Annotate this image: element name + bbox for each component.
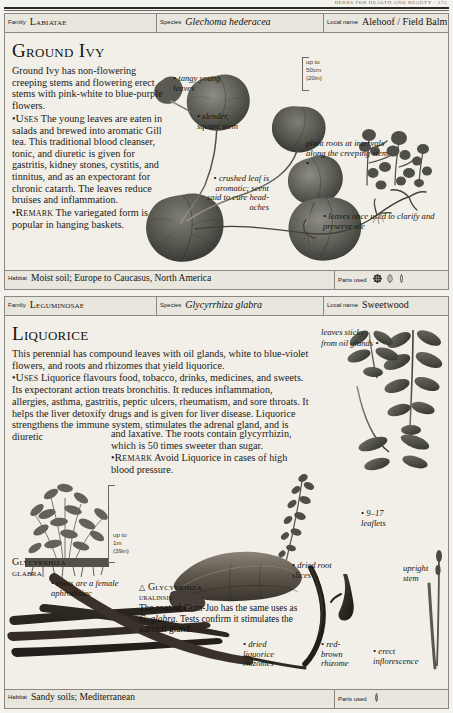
page-title: Liquorice — [12, 324, 88, 343]
body-paragraph-intro: This perennial has compound leaves with … — [12, 348, 308, 371]
annotation-tangy-young-leaves: • tangy young leaves — [173, 73, 227, 93]
footer-cell-habitat: Habitat Sandy soils; Mediterranean — [5, 690, 335, 708]
caption-glycyrrhiza-uralinsis: △ Glycyrrhiza uralinsis The root of Gum-… — [139, 582, 304, 635]
caption-title-line1: △ Glycyrrhiza — [139, 582, 304, 593]
body-paragraph-intro: Ground Ivy has non-flowering creeping st… — [12, 65, 163, 111]
article-content: Ground Ivy Ground Ivy has non-flowering … — [5, 33, 448, 270]
footer-cell-parts-used: Parts used — [335, 271, 448, 289]
annotation-text: upright stem — [403, 563, 428, 583]
leader-dot: • — [197, 111, 200, 121]
family-label: Family — [8, 302, 26, 308]
annotation-roots-female-aphrodisiac: • roots are a female aphrodisiac — [51, 578, 129, 598]
caption-title-line2: uralinsis — [139, 593, 304, 602]
annotation-text: dried root slices — [292, 560, 332, 580]
annotation-crushed-leaf-aromatic: • crushed leaf is aromatic; scent said t… — [203, 173, 269, 213]
top-rule-thick — [4, 7, 449, 9]
scale-line-1: up to — [113, 531, 129, 539]
annotation-leaves-sticky-oil-glands: leaves sticky from oil glands • — [321, 328, 379, 348]
article-footer-strip: Habitat Moist soil; Europe to Caucasus, … — [5, 270, 448, 289]
annotation-nine-seventeen-leaflets: • 9–17 leaflets — [361, 508, 409, 528]
article-content: Liquorice This perennial has compound le… — [5, 316, 448, 689]
article-liquorice: Family Leguminosae Species Glycyrrhiza g… — [4, 296, 449, 709]
species-value: Glycyrrhiza glabra — [185, 300, 262, 310]
annotation-text: leaves once used to clarify and preserve… — [323, 211, 435, 231]
local-name-value: Alehoof / Field Balm — [362, 17, 447, 27]
parts-used-label: Parts used — [338, 696, 367, 702]
flower-icon — [373, 274, 382, 283]
page-title: Ground Ivy — [12, 41, 105, 60]
leader-dot: • — [375, 338, 378, 348]
habitat-value: Moist soil; Europe to Caucasus, North Am… — [31, 274, 211, 284]
habitat-label: Habitat — [8, 275, 27, 281]
header-cell-local-name: Local name Alehoof / Field Balm — [324, 14, 448, 32]
leader-dot: • — [373, 646, 376, 656]
article-header-strip: Family Labiatae Species Glechoma hederac… — [5, 14, 448, 33]
header-cell-species: Species Glycyrrhiza glabra — [157, 297, 324, 315]
keyword-remark: Remark — [115, 451, 153, 463]
leader-dot: • — [173, 73, 176, 83]
running-head: HERBS FOR HEALTH AND BEAUTY · 175 — [0, 0, 453, 7]
header-cell-local-name: Local name Sweetwood — [324, 297, 448, 315]
annotation-text: plant roots at intervals along the creep… — [306, 138, 388, 158]
parts-used-icon-group — [373, 274, 405, 283]
family-value: Leguminosae — [30, 300, 85, 310]
local-name-value: Sweetwood — [362, 300, 409, 310]
annotation-text: tangy young leaves — [173, 73, 221, 93]
keyword-uses: Uses — [16, 371, 39, 383]
body-paragraph-continued: and laxative. The roots contain glycyrrh… — [111, 428, 292, 451]
top-rule-thin — [4, 10, 449, 11]
header-cell-species: Species Glechoma hederacea — [157, 14, 324, 32]
footer-cell-parts-used: Parts used — [335, 690, 448, 708]
local-name-label: Local name — [327, 19, 358, 25]
habitat-value: Sandy soils; Mediterranean — [31, 693, 135, 703]
annotation-erect-inflorescence: • erect inflorescence — [373, 646, 431, 666]
caption-glycyrrhiza-glabra: Glycyrrhiza glabra — [12, 557, 112, 579]
article-ground-ivy: Family Labiatae Species Glechoma hederac… — [4, 13, 449, 290]
leaf-icon — [386, 274, 394, 283]
article-panel: Family Leguminosae Species Glycyrrhiza g… — [4, 296, 449, 709]
annotation-upright-stem: upright stem — [403, 564, 445, 583]
parts-used-label: Parts used — [338, 277, 367, 283]
leader-dot: • — [361, 508, 364, 518]
annotation-slender-square-stem: • slender, square stem — [197, 111, 243, 131]
leader-dot: • — [321, 639, 324, 649]
local-name-label: Local name — [327, 302, 358, 308]
leader-dot: • — [243, 639, 246, 649]
triangle-icon: △ — [139, 583, 145, 592]
header-cell-family: Family Labiatae — [5, 14, 157, 32]
footer-cell-habitat: Habitat Moist soil; Europe to Caucasus, … — [5, 271, 335, 289]
leader-dot: • — [214, 173, 217, 183]
habitat-label: Habitat — [8, 694, 27, 700]
annotation-text: erect inflorescence — [373, 646, 419, 666]
stem-icon — [398, 274, 405, 283]
article-footer-strip: Habitat Sandy soils; Mediterranean Parts… — [5, 689, 448, 708]
annotation-dried-root-slices: • dried root slices — [292, 560, 344, 580]
article-body-continued: and laxative. The roots contain glycyrrh… — [111, 428, 310, 476]
annotation-text: crushed leaf is aromatic; scent said to … — [207, 173, 269, 212]
species-value: Glechoma hederacea — [185, 17, 270, 27]
caption-title-line2: glabra — [12, 568, 112, 579]
caption-description: The root of Gum-Juo has the same uses as… — [139, 603, 304, 635]
annotation-text: roots are a female aphrodisiac — [51, 578, 118, 598]
annotation-text: red-brown rhizome — [321, 639, 349, 668]
header-cell-family: Family Leguminosae — [5, 297, 157, 315]
article-body: Ground Ivy has non-flowering creeping st… — [12, 65, 164, 231]
annotation-dried-liquorice-rhizomes: • dried liquorice rhizomes — [243, 639, 287, 669]
leader-dot: • — [292, 560, 295, 570]
article-header-strip: Family Leguminosae Species Glycyrrhiza g… — [5, 297, 448, 316]
annotation-text: dried liquorice rhizomes — [243, 639, 274, 668]
annotation-text: 9–17 leaflets — [361, 508, 386, 528]
annotation-text: slender, square stem — [197, 111, 238, 131]
leader-dot: • — [323, 211, 326, 221]
scale-line-2: 1m — [113, 539, 129, 547]
leader-dot: • — [51, 578, 54, 588]
species-label: Species — [160, 302, 181, 308]
article-panel: Family Labiatae Species Glechoma hederac… — [4, 13, 449, 290]
keyword-remark: Remark — [16, 206, 54, 218]
root-icon — [373, 693, 380, 702]
parts-used-icon-group — [373, 693, 380, 702]
book-page: HERBS FOR HEALTH AND BEAUTY · 175 Family… — [0, 0, 453, 713]
family-value: Labiatae — [30, 17, 67, 27]
scale-indicator-liquorice: up to 1m (39in) — [113, 531, 129, 555]
keyword-uses: Uses — [16, 112, 39, 124]
